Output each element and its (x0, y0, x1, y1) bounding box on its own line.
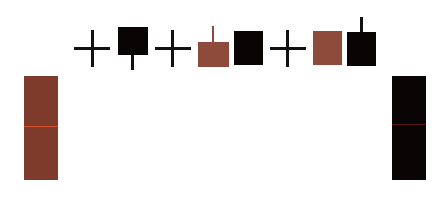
black-candle-3 (347, 17, 376, 67)
bar-midline (24, 126, 58, 127)
right-tall-black-bar (392, 76, 426, 180)
black-candle-2 (234, 31, 263, 65)
left-tall-brown-bar (24, 76, 58, 180)
brown-candle-2 (313, 31, 342, 65)
candle-upper-wick (212, 26, 214, 42)
candle-body (198, 42, 229, 67)
bar-midline (392, 124, 426, 125)
doji-cross-3 (270, 30, 306, 67)
doji-cross-1 (74, 30, 110, 67)
doji-cross-2 (155, 30, 191, 67)
cross-vertical (171, 30, 174, 67)
candle-upper-wick (360, 17, 363, 33)
candle-body (118, 27, 148, 55)
candle-body (347, 32, 376, 66)
cross-vertical (286, 30, 289, 67)
candle-lower-wick (131, 55, 134, 70)
brown-candle-1 (198, 26, 229, 68)
cross-vertical (91, 30, 94, 67)
black-candle-1 (118, 27, 148, 71)
